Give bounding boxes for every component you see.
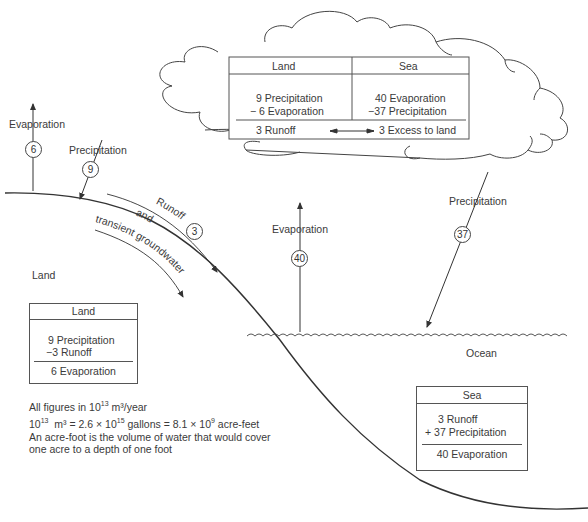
units-note-line-4: one acre to a depth of one foot <box>29 442 271 456</box>
land-evaporation-value: 6 <box>25 141 42 158</box>
cloud-land-result: 3 Runoff <box>256 125 296 136</box>
land-balance-box: Land 9 Precipitation −3 Runoff 6 Evapora… <box>29 303 138 384</box>
cloud-table-header-sea: Sea <box>399 61 418 72</box>
ocean-region-label: Ocean <box>466 348 497 359</box>
units-notes: All figures in 1013 m³/year 1013 m³ = 2.… <box>29 397 271 456</box>
runoff-value: 3 <box>186 223 203 240</box>
land-evaporation-label: Evaporation <box>9 119 65 130</box>
ocean-surface-waves <box>247 334 567 336</box>
sea-balance-box: Sea 3 Runoff + 37 Precipitation 40 Evapo… <box>416 386 528 471</box>
sea-box-result: 40 Evaporation <box>422 444 522 460</box>
land-box-line-2: −3 Runoff <box>30 346 137 358</box>
units-note-line-1: All figures in 1013 m³/year <box>29 397 271 414</box>
land-region-label: Land <box>32 270 55 281</box>
cloud-table-header-land: Land <box>272 61 295 72</box>
sea-box-line-1: 3 Runoff <box>417 413 527 426</box>
cloud-sea-line-2: −37 Precipitation <box>368 106 447 117</box>
sea-precipitation-value: 37 <box>454 226 471 243</box>
units-note-line-2: 1013 m³ = 2.6 × 1015 gallons = 8.1 × 109… <box>29 414 271 431</box>
land-precipitation-label: Precipitation <box>69 145 127 156</box>
sea-box-line-2: + 37 Precipitation <box>417 426 527 439</box>
sea-evaporation-value: 40 <box>291 250 308 267</box>
cloud-land-line-1: 9 Precipitation <box>256 93 323 104</box>
cloud-sea-result: 3 Excess to land <box>379 125 456 136</box>
runoff-label: Runoff <box>155 195 188 222</box>
sea-precipitation-label: Precipitation <box>449 196 507 207</box>
land-box-line-1: 9 Precipitation <box>30 334 137 346</box>
land-box-result: 6 Evaporation <box>34 361 133 377</box>
cloud-sea-line-1: 40 Evaporation <box>375 93 446 104</box>
land-precipitation-value: 9 <box>82 161 99 178</box>
cloud-land-line-2: − 6 Evaporation <box>250 106 324 117</box>
groundwater-label: transient groundwater <box>95 212 189 276</box>
sea-evaporation-label: Evaporation <box>272 224 328 235</box>
land-box-header: Land <box>30 304 137 320</box>
sea-box-header: Sea <box>417 387 527 404</box>
